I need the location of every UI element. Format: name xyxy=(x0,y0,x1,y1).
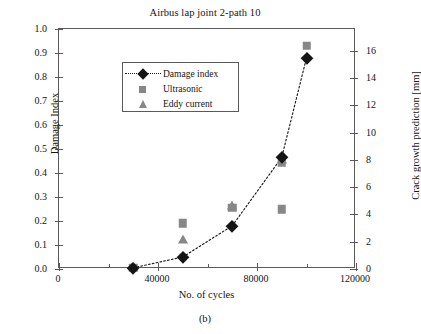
y-tick-left-inner xyxy=(59,173,63,174)
legend: Damage index Ultrasonic Eddy current xyxy=(122,62,239,112)
y-tick-right xyxy=(354,214,358,215)
data-point-triangle xyxy=(227,200,237,209)
y-tick-right-inner xyxy=(350,242,354,243)
x-tick-label: 120000 xyxy=(320,273,390,284)
data-point-triangle xyxy=(178,235,188,244)
x-tick-label: 80000 xyxy=(221,273,291,284)
y-tick-right xyxy=(354,242,358,243)
chart-title: Airbus lap joint 2-path 10 xyxy=(0,7,410,18)
y-tick-right xyxy=(354,51,358,52)
y-tick-left-inner xyxy=(59,101,63,102)
y-tick-right xyxy=(354,160,358,161)
x-tick-minor xyxy=(109,264,110,267)
y-tick-left-inner xyxy=(59,221,63,222)
x-tick-inner xyxy=(257,263,258,267)
y-tick-left-inner xyxy=(59,197,63,198)
legend-item-eddy-current: Eddy current xyxy=(123,96,238,111)
y-tick-right-inner xyxy=(350,51,354,52)
y-tick-right xyxy=(354,187,358,188)
x-tick xyxy=(158,267,159,271)
legend-item-damage-index: Damage index xyxy=(123,66,238,81)
legend-symbol-triangle xyxy=(123,96,163,111)
y-tick-label-right: 0 xyxy=(366,263,386,274)
y-tick-right xyxy=(354,78,358,79)
y-tick-label-right: 4 xyxy=(366,208,386,219)
y-tick-left-inner xyxy=(59,125,63,126)
data-point-square xyxy=(179,219,188,228)
y-tick-right-inner xyxy=(350,133,354,134)
y-tick-label-right: 10 xyxy=(366,126,386,137)
y-tick-label-left: 0.9 xyxy=(13,47,47,58)
y-tick-label-right: 16 xyxy=(366,44,386,55)
y-tick-label-right: 6 xyxy=(366,181,386,192)
x-axis-title: No. of cycles xyxy=(58,289,355,300)
y-tick-label-right: 8 xyxy=(366,153,386,164)
x-tick xyxy=(257,267,258,271)
legend-label-damage-index: Damage index xyxy=(163,69,218,79)
y-tick-label-left: 0.1 xyxy=(13,239,47,250)
y-tick-right-inner xyxy=(350,187,354,188)
y-tick-left-inner xyxy=(59,149,63,150)
plot-area: Damage index Ultrasonic Eddy current xyxy=(58,28,355,268)
y-tick-right-inner xyxy=(350,214,354,215)
data-point-square xyxy=(278,205,287,214)
y-tick-label-left: 0.2 xyxy=(13,215,47,226)
y-tick-label-right: 14 xyxy=(366,72,386,83)
x-tick-label: 0 xyxy=(23,273,93,284)
y-tick-label-left: 0.0 xyxy=(13,263,47,274)
legend-symbol-square xyxy=(123,81,163,96)
y-tick-label-right: 2 xyxy=(366,235,386,246)
x-tick-minor xyxy=(208,264,209,267)
y-tick-label-left: 0.7 xyxy=(13,95,47,106)
y-axis-title-right: Crack growth prediction [mm] xyxy=(410,51,421,221)
figure-caption: (b) xyxy=(0,313,410,324)
y-tick-right-inner xyxy=(350,78,354,79)
x-tick-minor xyxy=(307,264,308,267)
data-point-square xyxy=(302,42,311,51)
y-tick-left-inner xyxy=(59,53,63,54)
x-tick-label: 40000 xyxy=(122,273,192,284)
legend-label-ultrasonic: Ultrasonic xyxy=(163,84,203,94)
y-tick-right-inner xyxy=(350,160,354,161)
y-axis-title-left: Damage Index xyxy=(49,64,60,184)
y-tick-right-inner xyxy=(350,105,354,106)
y-tick-right xyxy=(354,105,358,106)
y-tick-left-inner xyxy=(59,77,63,78)
y-tick-label-left: 0.3 xyxy=(13,191,47,202)
y-tick-left-inner xyxy=(59,245,63,246)
y-tick-label-left: 0.6 xyxy=(13,119,47,130)
x-tick xyxy=(356,267,357,271)
x-tick-inner xyxy=(59,263,60,267)
y-tick-label-left: 0.4 xyxy=(13,167,47,178)
y-tick-label-left: 1.0 xyxy=(13,23,47,34)
y-tick-label-left: 0.5 xyxy=(13,143,47,154)
legend-label-eddy-current: Eddy current xyxy=(163,99,212,109)
y-tick-left-inner xyxy=(59,29,63,30)
y-tick-right-inner xyxy=(350,269,354,270)
y-tick-label-right: 12 xyxy=(366,99,386,110)
x-tick-inner xyxy=(158,263,159,267)
legend-symbol-diamond-dashed xyxy=(123,66,163,81)
x-tick-inner xyxy=(356,263,357,267)
x-tick xyxy=(59,267,60,271)
legend-item-ultrasonic: Ultrasonic xyxy=(123,81,238,96)
y-tick-right xyxy=(354,133,358,134)
y-tick-label-left: 0.8 xyxy=(13,71,47,82)
